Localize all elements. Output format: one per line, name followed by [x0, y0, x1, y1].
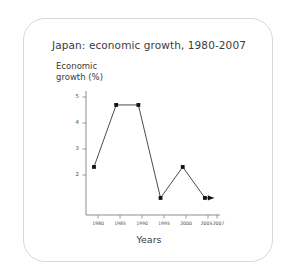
data-point-marker — [114, 103, 118, 107]
chart-card: Japan: economic growth, 1980-2007 Econom… — [23, 18, 273, 262]
y-tick-label: 5 — [76, 93, 79, 99]
x-tick-label: 2007 — [213, 221, 225, 226]
x-axis-title: Years — [24, 234, 274, 245]
x-tick-label: 1990 — [136, 221, 148, 226]
x-axis-ticks — [98, 215, 217, 219]
y-tick-label: 4 — [76, 119, 80, 125]
x-tick-label: 2005 — [201, 221, 213, 226]
x-tick-label: 1980 — [92, 221, 104, 226]
x-axis-tick-labels: 1980 1985 1990 1995 2000 2005 2007 — [92, 221, 224, 226]
y-tick-label: 3 — [76, 145, 79, 151]
x-tick-label: 2000 — [180, 221, 192, 226]
chart-plot-area: 5 4 3 2 1980 1985 1990 1995 2000 2005 20… — [24, 19, 274, 263]
data-point-marker — [159, 196, 163, 200]
y-tick-label: 2 — [76, 171, 79, 177]
data-point-marker — [203, 196, 207, 200]
data-point-marker — [92, 165, 96, 169]
data-point-marker — [136, 103, 140, 107]
x-tick-label: 1995 — [158, 221, 170, 226]
data-point-marker — [181, 165, 185, 169]
y-axis-tick-labels: 5 4 3 2 — [76, 93, 80, 177]
y-axis-ticks — [83, 97, 87, 175]
series-arrowhead-icon — [208, 195, 214, 200]
data-series-line — [94, 105, 214, 198]
x-tick-label: 1985 — [114, 221, 126, 226]
